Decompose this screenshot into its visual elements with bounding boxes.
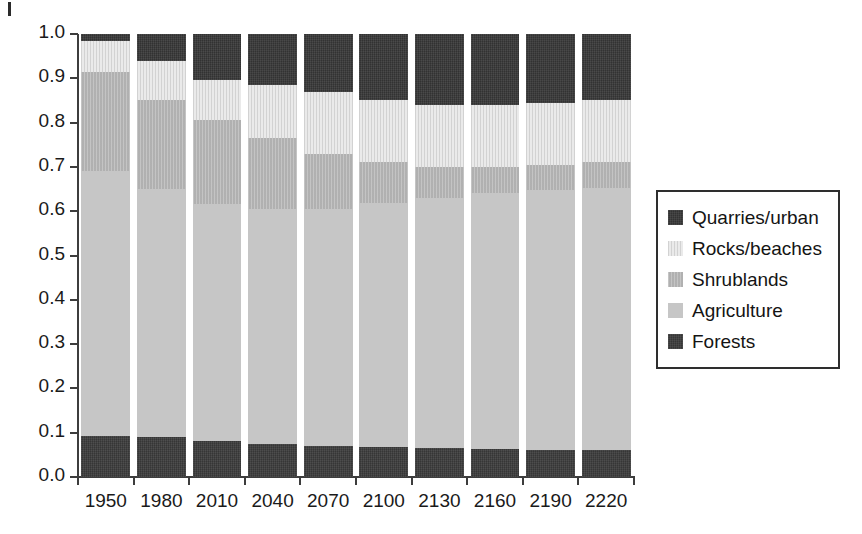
legend-label: Rocks/beaches — [692, 238, 822, 259]
stacked-bar — [248, 34, 297, 477]
bar-segment — [248, 444, 297, 477]
x-tick — [77, 477, 79, 485]
y-tick: 0.2 — [70, 387, 78, 389]
x-tick-label: 2070 — [307, 490, 349, 512]
legend-item: Forests — [668, 326, 828, 357]
y-tick: 1.0 — [70, 33, 78, 35]
y-tick-label: 0.3 — [39, 332, 65, 352]
bar-segment — [471, 449, 520, 477]
stacked-bar — [526, 34, 575, 477]
y-tick-label: 0.8 — [39, 111, 65, 131]
stacked-bar — [137, 34, 186, 477]
stacked-bar — [359, 34, 408, 477]
bar-segment — [415, 34, 464, 105]
x-tick-label: 2190 — [529, 490, 571, 512]
legend-label: Quarries/urban — [692, 207, 819, 228]
y-tick: 0.5 — [70, 255, 78, 257]
bar-segment — [359, 447, 408, 477]
bar-segment — [526, 165, 575, 190]
stacked-bar — [415, 34, 464, 477]
x-tick — [299, 477, 301, 485]
legend-swatch-icon — [668, 303, 683, 318]
y-tick-label: 0.7 — [39, 155, 65, 175]
bar-segment — [526, 103, 575, 165]
bar-segment — [304, 92, 353, 154]
bar-segment — [415, 167, 464, 198]
y-tick: 0.8 — [70, 122, 78, 124]
bar-segment — [582, 162, 631, 187]
bar-segment — [582, 450, 631, 477]
legend-item: Shrublands — [668, 264, 828, 295]
legend-swatch-icon — [668, 334, 683, 349]
bar-segment — [193, 120, 242, 203]
stacked-bar — [193, 34, 242, 477]
y-tick: 0.7 — [70, 166, 78, 168]
bar-segment — [415, 448, 464, 477]
y-tick-label: 0.6 — [39, 199, 65, 219]
legend-swatch-icon — [668, 272, 683, 287]
y-tick-label: 0.0 — [39, 465, 65, 485]
x-tick — [577, 477, 579, 485]
y-tick-label: 0.2 — [39, 376, 65, 396]
x-tick-label: 1980 — [140, 490, 182, 512]
bar-segment — [359, 203, 408, 447]
stacked-bar-chart-figure: 0.00.10.20.30.40.50.60.70.80.91.0 195019… — [0, 0, 862, 534]
legend-label: Shrublands — [692, 269, 788, 290]
bar-segment — [81, 34, 130, 41]
y-tick-label: 0.1 — [39, 421, 65, 441]
bar-segment — [304, 446, 353, 477]
bar-segment — [193, 441, 242, 477]
bar-segment — [582, 188, 631, 451]
y-tick: 0.9 — [70, 77, 78, 79]
bar-segment — [359, 100, 408, 162]
bar-segment — [359, 34, 408, 100]
y-tick: 0.3 — [70, 343, 78, 345]
x-tick — [633, 477, 635, 485]
corner-crop-mark — [8, 2, 11, 16]
legend-item: Quarries/urban — [668, 202, 828, 233]
x-tick — [133, 477, 135, 485]
stacked-bar — [582, 34, 631, 477]
chart-legend: Quarries/urbanRocks/beachesShrublandsAgr… — [656, 190, 840, 369]
bar-segment — [471, 167, 520, 194]
bar-segment — [471, 105, 520, 167]
y-tick: 0.4 — [70, 299, 78, 301]
x-tick — [466, 477, 468, 485]
bar-segment — [137, 437, 186, 477]
bar-segment — [81, 72, 130, 172]
x-tick-label: 1950 — [85, 490, 127, 512]
legend-label: Agriculture — [692, 300, 783, 321]
y-tick-label: 0.4 — [39, 288, 65, 308]
bar-segment — [526, 34, 575, 103]
bar-segment — [582, 100, 631, 162]
bar-segment — [137, 100, 186, 189]
bar-segment — [137, 34, 186, 61]
stacked-bar — [471, 34, 520, 477]
bar-segment — [359, 162, 408, 202]
bar-segment — [582, 34, 631, 100]
stacked-bar — [304, 34, 353, 477]
stacked-bar — [81, 34, 130, 477]
legend-label: Forests — [692, 331, 755, 352]
bar-segment — [526, 190, 575, 450]
legend-swatch-icon — [668, 210, 683, 225]
legend-swatch-icon — [668, 241, 683, 256]
bar-segment — [193, 204, 242, 441]
x-tick-label: 2040 — [251, 490, 293, 512]
y-tick: 0.1 — [70, 432, 78, 434]
bar-segment — [193, 34, 242, 80]
bar-segment — [415, 105, 464, 167]
bar-segment — [193, 80, 242, 121]
y-tick-label: 0.9 — [39, 66, 65, 86]
bar-segment — [137, 61, 186, 101]
bar-segment — [81, 171, 130, 435]
bar-segment — [81, 436, 130, 477]
y-tick: 0.6 — [70, 210, 78, 212]
bar-segment — [137, 189, 186, 437]
bar-segment — [81, 41, 130, 72]
bar-segment — [248, 209, 297, 444]
bar-segment — [304, 34, 353, 92]
bar-segment — [248, 34, 297, 85]
bar-segment — [526, 450, 575, 477]
x-tick — [411, 477, 413, 485]
